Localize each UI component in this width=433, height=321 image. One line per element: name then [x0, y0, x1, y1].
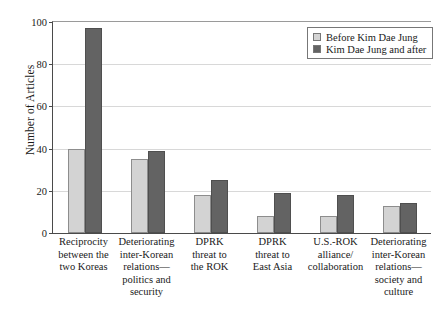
bar-group [242, 22, 305, 233]
legend-item: Kim Dae Jung and after [313, 43, 426, 55]
y-axis-title: Number of Articles [24, 10, 36, 210]
y-tick-label: 60 [37, 101, 48, 112]
y-tick-label: 20 [37, 185, 48, 196]
y-tick-label: 40 [37, 143, 48, 154]
x-axis-label: Reciprocity between the two Koreas [52, 236, 115, 274]
bar [211, 180, 228, 233]
bar [148, 151, 165, 233]
legend-swatch-icon [313, 33, 321, 41]
bar [400, 203, 417, 233]
legend-item-label: Before Kim Dae Jung [326, 32, 418, 43]
legend-item-label: Kim Dae Jung and after [326, 44, 426, 55]
bar-group [179, 22, 242, 233]
x-axis-label: U.S.-ROK alliance/ collaboration [304, 236, 367, 274]
y-tick-label: 80 [37, 59, 48, 70]
bar-group [53, 22, 116, 233]
y-tick-mark [49, 233, 53, 234]
bar [383, 206, 400, 233]
y-tick-label: 100 [31, 17, 47, 28]
bar [131, 159, 148, 233]
x-axis-label: Deteriorating inter-Korean relations— po… [115, 236, 178, 299]
bar [337, 195, 354, 233]
x-axis-label: Deteriorating inter-Korean relations— so… [367, 236, 430, 299]
legend-swatch-icon [313, 45, 321, 53]
x-axis-labels: Reciprocity between the two KoreasDeteri… [52, 236, 430, 321]
x-axis-label: DPRK threat to East Asia [241, 236, 304, 274]
bar [85, 28, 102, 233]
chart-legend: Before Kim Dae Jung Kim Dae Jung and aft… [307, 27, 433, 59]
bar [257, 216, 274, 233]
bar [320, 216, 337, 233]
bar [274, 193, 291, 233]
bar-group [116, 22, 179, 233]
x-axis-label: DPRK threat to the ROK [178, 236, 241, 274]
legend-item: Before Kim Dae Jung [313, 31, 426, 43]
bar [194, 195, 211, 233]
y-tick-label: 0 [42, 228, 47, 239]
bar [68, 149, 85, 233]
